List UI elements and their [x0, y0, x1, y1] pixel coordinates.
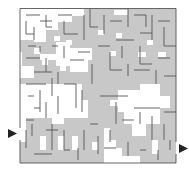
entrance-arrow-icon [8, 129, 17, 138]
exit-arrow-icon [179, 144, 188, 153]
maze-board [0, 0, 189, 175]
